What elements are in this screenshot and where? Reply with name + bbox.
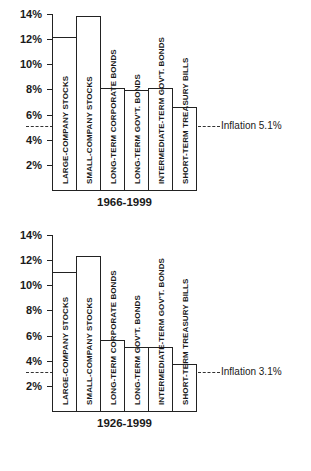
y-tick-label: 12% xyxy=(6,254,42,266)
bar-small-company-stocks: SMALL-COMPANY STOCKS xyxy=(76,256,101,411)
y-tick-label: 10% xyxy=(6,279,42,291)
bar-label: SHORT-TERM TREASURY BILLS xyxy=(181,278,190,405)
y-tick-label: 14% xyxy=(6,229,42,241)
bar-label: LARGE-COMPANY STOCKS xyxy=(61,297,70,405)
y-tick xyxy=(47,235,52,236)
bar-intermediate-term-govt-bonds: INTERMEDIATE-TERM GOV'T. BONDS xyxy=(148,347,173,411)
inflation-reference-line xyxy=(26,372,53,373)
inflation-label: Inflation 3.1% xyxy=(221,366,282,378)
bar-long-term-corporate-bonds: LONG-TERM CORPORATE BONDS xyxy=(100,340,125,411)
bar-long-term-govt-bonds: LONG-TERM GOV'T. BONDS xyxy=(124,347,149,411)
bar-large-company-stocks: LARGE-COMPANY STOCKS xyxy=(52,272,77,411)
x-axis xyxy=(52,411,197,412)
y-tick-label: 2% xyxy=(6,380,42,392)
bar-label: LONG-TERM GOV'T. BONDS xyxy=(133,295,142,405)
y-tick-label: 4% xyxy=(6,355,42,367)
chart-1926-1999: 14% 12% 10% 8% 6% 4% 2% LARGE-COMPANY ST… xyxy=(0,0,311,471)
y-tick xyxy=(47,260,52,261)
bar-label: INTERMEDIATE-TERM GOV'T. BONDS xyxy=(157,258,166,405)
y-tick-label: 8% xyxy=(6,304,42,316)
inflation-reference-line xyxy=(198,372,220,373)
bar-label: SMALL-COMPANY STOCKS xyxy=(85,297,94,405)
y-tick-label: 6% xyxy=(6,330,42,342)
bar-label: LONG-TERM CORPORATE BONDS xyxy=(109,270,118,405)
period-label: 1926-1999 xyxy=(52,417,197,429)
bar-short-term-treasury-bills: SHORT-TERM TREASURY BILLS xyxy=(172,364,197,411)
